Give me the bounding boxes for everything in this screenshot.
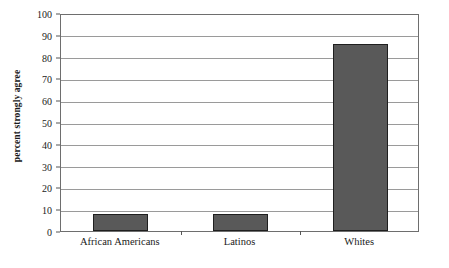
- x-axis-tick-label: Whites: [344, 236, 374, 247]
- y-axis-title-text: percent strongly agree: [12, 70, 22, 162]
- y-axis-tick-label: 80: [42, 52, 52, 63]
- x-axis-tick-label: Latinos: [224, 236, 256, 247]
- y-axis-tick-label: 20: [42, 183, 52, 194]
- y-axis-tick-label: 100: [37, 9, 52, 20]
- bar: [93, 214, 148, 231]
- bar-chart-figure: percent strongly agree 01020304050607080…: [0, 0, 449, 268]
- y-axis-title: percent strongly agree: [8, 0, 26, 232]
- y-axis-tick-label: 60: [42, 96, 52, 107]
- bar: [213, 214, 268, 231]
- bar: [333, 44, 388, 231]
- plot-area: [60, 14, 419, 232]
- y-axis-tick-label: 90: [42, 30, 52, 41]
- y-axis-tick-label: 10: [42, 205, 52, 216]
- x-axis-tick-mark: [181, 231, 182, 235]
- y-axis-tick-label: 70: [42, 74, 52, 85]
- x-axis-tick-label: African Americans: [80, 236, 160, 247]
- x-axis-tick-mark: [300, 231, 301, 235]
- y-axis-tick-label: 50: [42, 118, 52, 129]
- y-axis-tick-label: 40: [42, 139, 52, 150]
- x-axis-tick-labels: African AmericansLatinosWhites: [60, 236, 419, 258]
- gridline: [61, 36, 418, 37]
- y-axis-tick-label: 0: [47, 227, 52, 238]
- y-axis-tick-label: 30: [42, 161, 52, 172]
- y-axis-tick-labels: 0102030405060708090100: [26, 14, 56, 232]
